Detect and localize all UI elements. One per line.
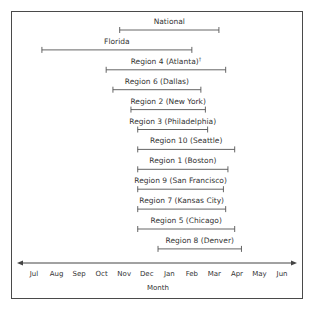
tick-label-oct: Oct: [96, 270, 108, 278]
range-label: Region 2 (New York): [130, 97, 205, 106]
range-bars: NationalFloridaRegion 4 (Atlanta)†Region…: [42, 17, 242, 252]
range-bar: Region 2 (New York): [130, 97, 205, 113]
x-axis-label: Month: [147, 284, 169, 292]
tick-label-may: May: [252, 270, 266, 278]
footnote-marker: †: [199, 56, 202, 62]
range-bar: Region 3 (Philadelphia): [129, 117, 216, 133]
range-label: Region 9 (San Francisco): [134, 176, 227, 185]
range-label: Region 4 (Atlanta)†: [131, 56, 202, 66]
tick-label-sep: Sep: [72, 270, 86, 278]
range-bar: Region 7 (Kansas City): [138, 196, 226, 212]
tick-label-aug: Aug: [50, 270, 64, 278]
range-label: Region 3 (Philadelphia): [129, 117, 216, 126]
range-bar: Region 10 (Seattle): [138, 136, 235, 152]
range-label: Region 6 (Dallas): [125, 77, 189, 86]
range-label: Region 10 (Seattle): [150, 136, 222, 145]
tick-label-jan: Jan: [163, 270, 175, 278]
range-bar: Region 5 (Chicago): [138, 216, 235, 232]
range-bar: Region 4 (Atlanta)†: [106, 56, 226, 73]
range-label: Region 5 (Chicago): [151, 216, 222, 225]
tick-label-dec: Dec: [140, 270, 154, 278]
range-chart: NationalFloridaRegion 4 (Atlanta)†Region…: [0, 0, 314, 310]
range-label: National: [154, 17, 185, 26]
tick-label-mar: Mar: [208, 270, 221, 278]
range-bar: Florida: [42, 37, 192, 53]
tick-label-jul: Jul: [29, 270, 39, 278]
range-bar: Region 8 (Denver): [158, 236, 241, 252]
arrow-left-icon: [17, 261, 23, 266]
range-bar: Region 9 (San Francisco): [134, 176, 227, 192]
range-label: Region 8 (Denver): [166, 236, 234, 245]
tick-label-feb: Feb: [186, 270, 199, 278]
range-bar: Region 1 (Boston): [138, 156, 228, 172]
arrow-right-icon: [291, 261, 297, 266]
month-tick-labels: JulAugSepOctNovDecJanFebMarAprMayJun: [29, 270, 288, 278]
tick-label-nov: Nov: [117, 270, 131, 278]
range-label: Region 7 (Kansas City): [139, 196, 224, 205]
range-label: Florida: [104, 37, 130, 46]
tick-label-apr: Apr: [231, 270, 243, 278]
tick-label-jun: Jun: [276, 270, 288, 278]
range-bar: Region 6 (Dallas): [113, 77, 201, 93]
x-axis: JulAugSepOctNovDecJanFebMarAprMayJun Mon…: [17, 261, 297, 293]
range-bar: National: [120, 17, 219, 33]
range-label: Region 1 (Boston): [149, 156, 216, 165]
